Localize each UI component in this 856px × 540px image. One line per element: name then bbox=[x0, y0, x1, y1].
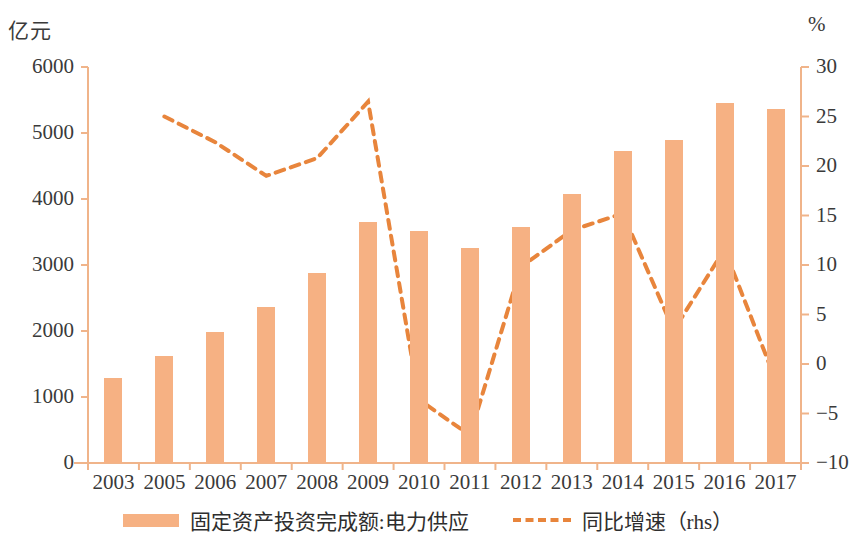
bar bbox=[308, 273, 326, 463]
bar bbox=[410, 231, 428, 463]
bar bbox=[155, 356, 173, 463]
bar bbox=[767, 109, 785, 463]
chart-container: 亿元 % 6000500040003000200010000 302520151… bbox=[0, 0, 856, 540]
bar bbox=[359, 222, 377, 463]
legend-line-label: 同比增速（rhs） bbox=[582, 505, 734, 535]
bar bbox=[716, 103, 734, 463]
legend-item-line: 同比增速（rhs） bbox=[513, 505, 734, 535]
bar bbox=[665, 140, 683, 463]
bar bbox=[512, 227, 530, 463]
bar bbox=[104, 378, 122, 463]
bar bbox=[563, 194, 581, 463]
legend-item-bar: 固定资产投资完成额:电力供应 bbox=[123, 505, 469, 535]
bar bbox=[461, 248, 479, 463]
legend-bar-swatch-icon bbox=[123, 514, 179, 527]
legend-dashed-line-icon bbox=[513, 518, 571, 522]
legend-bar-label: 固定资产投资完成额:电力供应 bbox=[190, 505, 469, 535]
bar bbox=[614, 151, 632, 463]
chart-legend: 固定资产投资完成额:电力供应 同比增速（rhs） bbox=[0, 500, 856, 540]
bar bbox=[206, 332, 224, 463]
bar bbox=[257, 307, 275, 463]
